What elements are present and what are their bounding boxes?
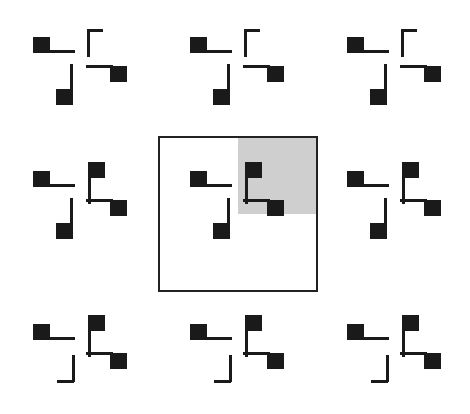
- bottom-right-line: [243, 199, 270, 202]
- bottom-left-square: [370, 223, 387, 239]
- bottom-right-line: [400, 65, 427, 68]
- top-right-corner-horizontal: [244, 29, 260, 32]
- bottom-right-line: [86, 199, 113, 202]
- bottom-left-line: [227, 198, 230, 225]
- top-left-line: [50, 50, 75, 53]
- bottom-left-corner-horizontal: [371, 380, 388, 383]
- bottom-right-square: [267, 353, 284, 369]
- bottom-left-corner-horizontal: [57, 380, 74, 383]
- bottom-left-line: [70, 198, 73, 225]
- top-left-line: [50, 337, 75, 340]
- bottom-right-square: [267, 200, 284, 216]
- bottom-right-line: [400, 199, 427, 202]
- bottom-right-square: [267, 66, 284, 82]
- top-right-corner-vertical: [87, 29, 90, 57]
- top-right-square: [245, 162, 262, 178]
- bottom-left-square: [56, 89, 73, 105]
- top-left-square: [347, 37, 364, 53]
- bottom-left-square: [370, 89, 387, 105]
- top-right-square: [245, 315, 262, 331]
- bottom-right-line: [243, 65, 270, 68]
- bottom-left-corner-vertical: [229, 355, 232, 382]
- bottom-right-square: [424, 66, 441, 82]
- top-left-square: [33, 324, 50, 340]
- top-left-square: [347, 324, 364, 340]
- bottom-right-line: [86, 352, 113, 355]
- top-right-corner-vertical: [244, 29, 247, 57]
- bottom-left-corner-vertical: [72, 355, 75, 382]
- bottom-right-square: [424, 353, 441, 369]
- bottom-left-square: [213, 89, 230, 105]
- top-left-line: [50, 184, 75, 187]
- bottom-left-square: [56, 223, 73, 239]
- bottom-right-square: [424, 200, 441, 216]
- bottom-left-corner-vertical: [386, 355, 389, 382]
- top-left-line: [207, 50, 232, 53]
- top-right-corner-horizontal: [87, 29, 103, 32]
- top-right-square: [88, 315, 105, 331]
- bottom-right-square: [110, 200, 127, 216]
- top-right-square: [88, 162, 105, 178]
- top-left-square: [190, 324, 207, 340]
- bottom-left-corner-horizontal: [214, 380, 231, 383]
- top-left-line: [364, 184, 389, 187]
- top-left-line: [364, 50, 389, 53]
- bottom-left-line: [70, 64, 73, 91]
- top-right-corner-horizontal: [401, 29, 417, 32]
- bottom-right-line: [86, 65, 113, 68]
- top-right-square: [402, 162, 419, 178]
- bottom-left-line: [227, 64, 230, 91]
- bottom-right-square: [110, 353, 127, 369]
- bottom-left-line: [384, 198, 387, 225]
- top-left-line: [207, 337, 232, 340]
- top-left-line: [364, 337, 389, 340]
- top-left-square: [33, 171, 50, 187]
- top-left-square: [190, 171, 207, 187]
- bottom-left-line: [384, 64, 387, 91]
- center-cell-frame: [158, 136, 318, 292]
- top-right-square: [402, 315, 419, 331]
- top-right-corner-vertical: [401, 29, 404, 57]
- top-left-line: [207, 184, 232, 187]
- top-left-square: [347, 171, 364, 187]
- bottom-right-line: [243, 352, 270, 355]
- bottom-left-square: [213, 223, 230, 239]
- top-left-square: [190, 37, 207, 53]
- bottom-right-square: [110, 66, 127, 82]
- bottom-right-line: [400, 352, 427, 355]
- top-left-square: [33, 37, 50, 53]
